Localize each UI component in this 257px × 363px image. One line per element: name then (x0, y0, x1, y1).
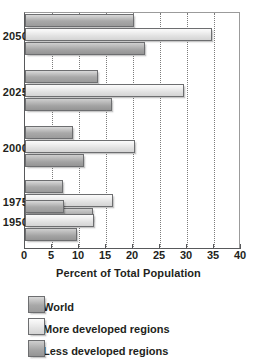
bar-2050-world (25, 14, 134, 27)
legend-item-world: World (28, 296, 257, 318)
ytick-label-1975: 1975 (0, 196, 28, 208)
bar-2050-more-developed (25, 28, 212, 41)
bar-row-2025-world (25, 70, 241, 83)
chart-legend: World More developed regions Less develo… (28, 296, 257, 362)
ytick-label-1950: 1950 (0, 216, 28, 228)
xtick-label-25: 25 (144, 249, 174, 261)
bar-2000-more-developed (25, 140, 135, 153)
bar-1975-world (25, 180, 63, 193)
legend-swatch-more-developed (28, 318, 45, 335)
legend-label-less-developed: Less developed regions (43, 345, 168, 357)
bar-group-2000: 2000 (0, 126, 257, 173)
bar-row-1950-world (25, 200, 241, 213)
bar-row-2050-less (25, 42, 241, 55)
bar-row-1950-more (25, 214, 241, 227)
bar-row-1975-world (25, 180, 241, 193)
legend-label-more-developed: More developed regions (43, 323, 170, 335)
xtick-label-5: 5 (36, 249, 66, 261)
bar-2050-less-developed (25, 42, 145, 55)
xtick-label-35: 35 (198, 249, 228, 261)
legend-item-less-developed: Less developed regions (28, 340, 257, 362)
bar-row-2050-more (25, 28, 241, 41)
bar-row-2000-more (25, 140, 241, 153)
legend-item-more-developed: More developed regions (28, 318, 257, 340)
bar-row-2025-more (25, 84, 241, 97)
bar-row-2000-less (25, 154, 241, 167)
xtick-label-10: 10 (63, 249, 93, 261)
bar-2000-world (25, 126, 73, 139)
ytick-label-2025: 2025 (0, 86, 28, 98)
bar-group-2025: 2025 (0, 70, 257, 117)
bar-group-2050: 2050 (0, 14, 257, 61)
xtick-label-0: 0 (9, 249, 39, 261)
xtick-label-20: 20 (117, 249, 147, 261)
bar-row-1950-less (25, 228, 241, 241)
bar-chart-figure: 2050 2025 2000 (0, 0, 257, 363)
xtick-label-15: 15 (90, 249, 120, 261)
bar-1950-less-developed (25, 228, 77, 241)
bar-1950-world (25, 200, 64, 213)
ytick-label-2000: 2000 (0, 142, 28, 154)
bar-row-2050-world (25, 14, 241, 27)
bar-row-2000-world (25, 126, 241, 139)
xtick-label-40: 40 (225, 249, 255, 261)
bar-2025-less-developed (25, 98, 112, 111)
legend-label-world: World (43, 301, 74, 313)
bar-2000-less-developed (25, 154, 84, 167)
xtick-label-30: 30 (171, 249, 201, 261)
bar-row-2025-less (25, 98, 241, 111)
legend-swatch-less-developed (28, 340, 45, 357)
bar-2025-world (25, 70, 98, 83)
bar-1950-more-developed (25, 214, 94, 227)
bar-2025-more-developed (25, 84, 184, 97)
legend-swatch-world (28, 296, 45, 313)
ytick-label-2050: 2050 (0, 30, 28, 42)
plot-wrap: 2050 2025 2000 (0, 0, 257, 252)
x-axis-label: Percent of Total Population (0, 267, 257, 279)
